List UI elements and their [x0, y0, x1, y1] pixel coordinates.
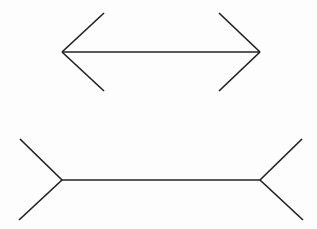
top-right-lower-fin	[219, 52, 260, 91]
top-left-upper-fin	[62, 13, 104, 52]
bottom-left-lower-fin	[19, 180, 62, 220]
top-right-upper-fin	[219, 13, 260, 52]
bottom-left-upper-fin	[20, 139, 62, 180]
muller-lyer-figure-group	[0, 0, 317, 229]
bottom-right-lower-fin	[260, 180, 303, 220]
top-figure-outward-fins	[62, 13, 260, 91]
illusion-canvas	[0, 0, 317, 229]
top-left-lower-fin	[62, 52, 104, 91]
bottom-right-upper-fin	[260, 139, 302, 180]
bottom-figure-inward-fins	[19, 139, 303, 220]
